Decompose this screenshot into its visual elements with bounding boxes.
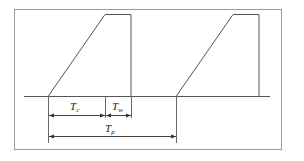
label-tw: Tw — [112, 100, 123, 114]
diagram-frame — [15, 10, 282, 150]
label-tp: Tp — [105, 122, 115, 136]
waveform-diagram: Tc Tw Tp — [0, 0, 304, 161]
waveform-cycle-1 — [48, 15, 131, 97]
label-tc: Tc — [70, 100, 80, 114]
waveform-cycle-2 — [176, 15, 259, 97]
